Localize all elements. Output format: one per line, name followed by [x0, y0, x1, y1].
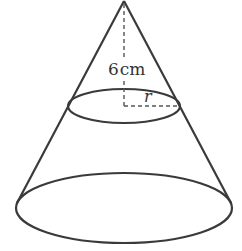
cone-diagram: 6cm r: [0, 0, 242, 251]
radius-label: r: [144, 87, 153, 106]
cone-base-ellipse: [16, 173, 232, 243]
height-label: 6cm: [108, 59, 145, 79]
